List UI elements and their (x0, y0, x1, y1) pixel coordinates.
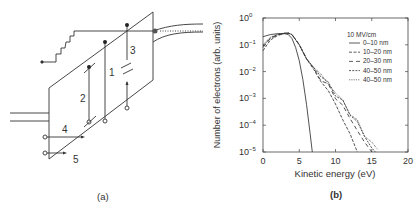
transition-1-filled (103, 40, 107, 44)
transition-3-break-2 (123, 69, 133, 74)
transition-3-filled (125, 23, 129, 27)
y-tick-label: 10−3 (239, 92, 257, 103)
interface-dot (153, 29, 158, 34)
y-tick-labels: 10010−110−210−310−410−5 (239, 12, 257, 157)
legend-label: 20–30 nm (363, 57, 392, 64)
transition-2-tick-bottom (84, 116, 96, 127)
data-curves (263, 33, 378, 152)
panel-b-chart: 10010−110−210−310−410−5 05101520 Kinetic… (212, 12, 413, 200)
staircase-path (42, 31, 153, 62)
transition-1-hole (103, 119, 107, 123)
figure: 1 2 3 4 5 (a) 10010−110−210−310−410−5 05… (0, 0, 419, 209)
legend-label: 10–20 nm (363, 48, 392, 55)
legend-label: 40–50 nm (363, 67, 392, 74)
transition-label-5: 5 (73, 154, 79, 165)
staircase-start-dot (41, 61, 43, 63)
legend: 10 MV/cm 0–10 nm10–20 nm20–30 nm40–50 nm… (347, 31, 392, 83)
transition-3-arrowhead (126, 81, 129, 85)
legend-label: 0–10 nm (363, 39, 388, 46)
transition-label-3: 3 (130, 45, 136, 56)
right-band-curve-top (153, 24, 203, 31)
transition-2-tick-top (84, 63, 95, 73)
transition-3-hole (125, 106, 129, 110)
panel-a-labels: 1 2 3 4 5 (a) (62, 45, 136, 202)
panel-a-band-diagram (10, 12, 203, 159)
x-tick-label: 10 (330, 156, 340, 166)
x-tick-labels: 05101520 (260, 156, 413, 166)
y-axis-title: Number of electrons (arb. units) (212, 22, 222, 149)
x-axis-title: Kinetic energy (eV) (295, 168, 376, 179)
transition-4-start (43, 135, 47, 139)
curve-dotted (263, 33, 378, 149)
y-tick-label: 10−1 (239, 39, 257, 50)
y-tick-label: 10−5 (239, 146, 257, 157)
y-tick-label: 10−4 (239, 119, 257, 130)
panel-b-caption: (b) (330, 189, 342, 200)
legend-title: 10 MV/cm (347, 31, 376, 38)
transition-label-1: 1 (109, 67, 115, 78)
transition-5-start (43, 151, 47, 155)
x-tick-label: 20 (403, 156, 413, 166)
x-tick-label: 5 (297, 156, 302, 166)
curve-solid (263, 34, 312, 152)
transition-4-arrowhead (81, 136, 85, 139)
y-tick-label: 100 (239, 12, 253, 23)
curve-short-dashed (263, 33, 375, 152)
legend-label: 40–50 nm (363, 76, 392, 83)
panel-a-caption: (a) (97, 191, 109, 202)
transition-3-break-1 (121, 63, 131, 68)
y-tick-label: 10−2 (239, 66, 257, 77)
transition-5-arrowhead (63, 152, 67, 155)
transition-label-4: 4 (62, 124, 68, 135)
transition-label-2: 2 (80, 93, 86, 104)
curve-long-dashed (263, 33, 372, 152)
x-tick-label: 0 (260, 156, 265, 166)
right-band-curve-bottom (153, 32, 203, 42)
x-tick-label: 15 (367, 156, 377, 166)
